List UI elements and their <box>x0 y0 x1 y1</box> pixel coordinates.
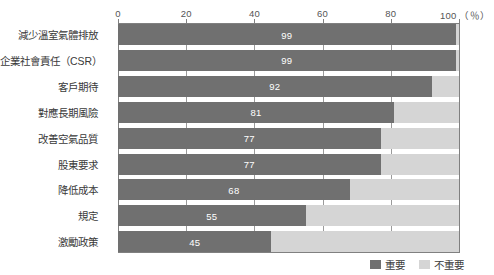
legend-label: 重要 <box>385 257 405 272</box>
x-axis-labels: 020406080100 （％） <box>0 8 494 22</box>
bar-row: 99 <box>118 24 459 45</box>
bar-value-label: 55 <box>206 210 217 221</box>
category-label: 對應長期風險 <box>0 108 108 119</box>
plot-bottom-line <box>118 252 460 253</box>
bar-row: 45 <box>118 231 459 252</box>
legend-item: 重要 <box>370 257 405 272</box>
bar-value-label: 77 <box>244 133 255 144</box>
bar-value-label: 92 <box>269 81 280 92</box>
category-label: 減少溫室氣體排放 <box>0 30 108 41</box>
bar-value-label: 99 <box>281 29 292 40</box>
category-label: 企業社會責任（CSR） <box>0 56 108 67</box>
bar-row: 92 <box>118 76 459 97</box>
bar-row: 77 <box>118 128 459 149</box>
x-tick-label: 60 <box>317 8 328 19</box>
category-label: 降低成本 <box>0 185 108 196</box>
legend-item: 不重要 <box>419 257 464 272</box>
bar-row: 77 <box>118 154 459 175</box>
category-label: 客戶期待 <box>0 82 108 93</box>
grid-line <box>459 24 460 252</box>
plot-area: 999992817777685545 <box>118 24 460 252</box>
bar-row: 99 <box>118 50 459 71</box>
bar-row: 81 <box>118 102 459 123</box>
x-tick-label: 0 <box>115 8 120 19</box>
bar-row: 68 <box>118 179 459 200</box>
bar-row: 55 <box>118 205 459 226</box>
bar-value-label: 45 <box>189 236 200 247</box>
legend-swatch-icon <box>370 260 381 269</box>
category-label: 改善空氣品質 <box>0 134 108 145</box>
x-tick-label: 20 <box>181 8 192 19</box>
x-tick-label: 40 <box>249 8 260 19</box>
chart-legend: 重要不重要 <box>0 257 494 272</box>
bar-value-label: 81 <box>251 107 262 118</box>
category-label: 股東要求 <box>0 160 108 171</box>
category-label: 激勵政策 <box>0 237 108 248</box>
x-tick-label: 80 <box>385 8 396 19</box>
bar-value-label: 77 <box>244 159 255 170</box>
bar-value-label: 68 <box>228 184 239 195</box>
x-tick-label: 100 （％） <box>440 8 490 22</box>
legend-label: 不重要 <box>434 257 464 272</box>
horizontal-bar-chart: 020406080100 （％） 999992817777685545 減少溫室… <box>0 0 494 275</box>
category-label: 規定 <box>0 211 108 222</box>
bar-value-label: 99 <box>281 55 292 66</box>
legend-swatch-icon <box>419 260 430 269</box>
